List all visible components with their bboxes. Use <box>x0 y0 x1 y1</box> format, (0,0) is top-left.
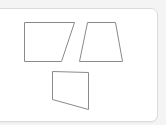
shapes-canvas <box>0 0 166 125</box>
quadrilateral-c-shape <box>53 72 89 110</box>
quadrilateral-b-shape <box>80 23 123 62</box>
quadrilateral-a-shape <box>25 23 75 62</box>
